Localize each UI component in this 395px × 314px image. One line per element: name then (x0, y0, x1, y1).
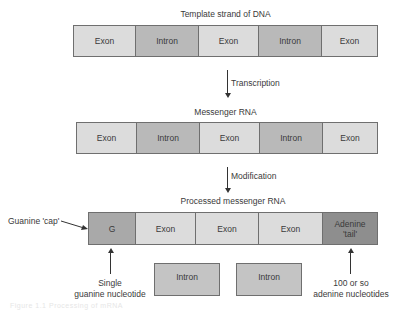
figure-caption: Figure 1.1 Processing of mRNA (10, 302, 123, 309)
transcription-label: Transcription (231, 78, 280, 88)
modification-label: Modification (231, 171, 276, 181)
dna-exon-3: Exon (322, 26, 377, 56)
tail-note: 100 or so adenine nucleotides (310, 278, 392, 300)
modification-arrow-icon (227, 167, 228, 189)
tail-note-arrow-icon (350, 252, 351, 274)
removed-intron-1: Intron (154, 263, 220, 296)
processed-exon-1: Exon (136, 213, 196, 244)
cap-pointer-arrow-icon (60, 218, 90, 232)
guanine-cap-label: Guanine 'cap' (8, 216, 59, 226)
mrna-exon-3: Exon (323, 123, 377, 153)
mrna-strand: Exon Intron Exon Intron Exon (76, 122, 378, 154)
dna-exon-2: Exon (199, 26, 259, 56)
cap-note-line1: Single (70, 278, 150, 289)
mrna-exon-2: Exon (200, 123, 260, 153)
cap-note: Single guanine nucleotide (70, 278, 150, 300)
dna-intron-1: Intron (136, 26, 199, 56)
dna-title: Template strand of DNA (73, 9, 378, 19)
dna-strand: Exon Intron Exon Intron Exon (73, 25, 378, 57)
adenine-tail-segment: Adenine 'tail' (323, 213, 377, 244)
guanine-cap-segment: G (89, 213, 136, 244)
transcription-arrow-icon (227, 70, 228, 94)
mrna-title: Messenger RNA (73, 107, 378, 117)
mrna-intron-1: Intron (137, 123, 200, 153)
dna-exon-1: Exon (74, 26, 136, 56)
dna-intron-2: Intron (259, 26, 322, 56)
processed-exon-3: Exon (259, 213, 323, 244)
mrna-exon-1: Exon (77, 123, 137, 153)
tail-note-line1: 100 or so (310, 278, 392, 289)
mrna-intron-2: Intron (260, 123, 323, 153)
cap-note-line2: guanine nucleotide (70, 289, 150, 300)
processed-exon-2: Exon (196, 213, 259, 244)
processed-title: Processed messenger RNA (88, 196, 378, 206)
cap-note-arrow-icon (110, 252, 111, 274)
processed-strand: G Exon Exon Exon Adenine 'tail' (88, 212, 378, 245)
removed-intron-2: Intron (236, 263, 302, 296)
tail-note-line2: adenine nucleotides (310, 289, 392, 300)
